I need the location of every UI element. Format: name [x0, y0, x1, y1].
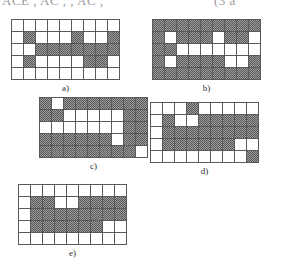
- grid-cell: [189, 32, 201, 44]
- grid-cell: [247, 115, 259, 127]
- grid-cell: [43, 233, 55, 245]
- grid-caption-a: a): [11, 83, 120, 93]
- grid-cell: [235, 127, 247, 139]
- grid-cell: [43, 221, 55, 233]
- grid-caption-b: b): [152, 83, 261, 93]
- grid-cell: [165, 68, 177, 80]
- grid-cell: [189, 44, 201, 56]
- grid-cell: [67, 233, 79, 245]
- grid-cell: [67, 221, 79, 233]
- grid-cell: [91, 221, 103, 233]
- grid-cell: [213, 56, 225, 68]
- grid-cell: [79, 221, 91, 233]
- grid-cell: [175, 103, 187, 115]
- grid-cell: [100, 98, 112, 110]
- grid-cell: [24, 44, 36, 56]
- grid-cell: [108, 44, 120, 56]
- grid-cell: [55, 221, 67, 233]
- grid-cell: [96, 56, 108, 68]
- grid-cell: [112, 98, 124, 110]
- grid-cell: [55, 185, 67, 197]
- grid-cell: [165, 56, 177, 68]
- grid-cell: [19, 197, 31, 209]
- grid-cell: [52, 98, 64, 110]
- grid-cell: [124, 146, 136, 158]
- grid-cell: [249, 56, 261, 68]
- grid-cell: [177, 56, 189, 68]
- grid-cell: [67, 197, 79, 209]
- grid-cell: [64, 110, 76, 122]
- grid-cell: [79, 197, 91, 209]
- grid-cell: [223, 103, 235, 115]
- grid-cell: [211, 139, 223, 151]
- grid-cell: [96, 20, 108, 32]
- grid-panel-a: a): [11, 19, 120, 93]
- grid-cell: [108, 32, 120, 44]
- grid-cell: [31, 221, 43, 233]
- grid-cell: [36, 20, 48, 32]
- grid-cell: [199, 115, 211, 127]
- grid-cell: [153, 32, 165, 44]
- grid-cell: [247, 103, 259, 115]
- grid-cell: [151, 115, 163, 127]
- grid-cell: [175, 139, 187, 151]
- grid-cell: [249, 32, 261, 44]
- grid-cell: [163, 127, 175, 139]
- grid-cell: [64, 98, 76, 110]
- grid-cell: [112, 134, 124, 146]
- grid-cell: [52, 110, 64, 122]
- grid-cell: [84, 20, 96, 32]
- grid-cell: [223, 139, 235, 151]
- grid-cell: [19, 233, 31, 245]
- grid-cell: [12, 68, 24, 80]
- grid-cell: [60, 20, 72, 32]
- grid-cell: [108, 20, 120, 32]
- grid-cell: [112, 110, 124, 122]
- grid-cell: [115, 209, 127, 221]
- grid-cell: [31, 197, 43, 209]
- grid-cell: [24, 20, 36, 32]
- grid-cell: [88, 122, 100, 134]
- grid-cell: [163, 139, 175, 151]
- grid-cell: [55, 233, 67, 245]
- grid-cell: [84, 44, 96, 56]
- grid-cell: [48, 56, 60, 68]
- grid-cell: [55, 197, 67, 209]
- grid-cell: [100, 122, 112, 134]
- grid-cell: [187, 115, 199, 127]
- grid-cell: [64, 122, 76, 134]
- grid-cell: [43, 197, 55, 209]
- grid-cell: [76, 134, 88, 146]
- grid-cell: [211, 127, 223, 139]
- grid-cell: [103, 221, 115, 233]
- grid-cell: [136, 110, 148, 122]
- grid-cell: [88, 98, 100, 110]
- grid-cell: [103, 209, 115, 221]
- grid-cell: [165, 20, 177, 32]
- grid-cell: [213, 32, 225, 44]
- grid-cell: [76, 110, 88, 122]
- grid-cell: [31, 209, 43, 221]
- grid-cell: [235, 139, 247, 151]
- grid-cell: [36, 56, 48, 68]
- grid-cell: [100, 146, 112, 158]
- grid-cell: [103, 233, 115, 245]
- grid-cell: [76, 122, 88, 134]
- grid-cell: [108, 56, 120, 68]
- grid-cell: [211, 103, 223, 115]
- grid-cell: [64, 146, 76, 158]
- grid-cell: [177, 32, 189, 44]
- grid-cell: [153, 56, 165, 68]
- grid-cell: [223, 151, 235, 163]
- grid-cell: [249, 68, 261, 80]
- grid-cell: [72, 44, 84, 56]
- grid-cell: [201, 56, 213, 68]
- grid-cell: [72, 20, 84, 32]
- grid-cell: [247, 139, 259, 151]
- grid-cell: [67, 185, 79, 197]
- grid-cell: [24, 68, 36, 80]
- grid-cell: [88, 110, 100, 122]
- grid-panel-d: d): [150, 102, 259, 176]
- grid-cell: [124, 98, 136, 110]
- grid-cell: [163, 103, 175, 115]
